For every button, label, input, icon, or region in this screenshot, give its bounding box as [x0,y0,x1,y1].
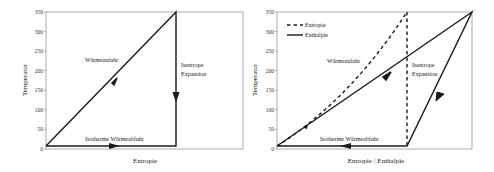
tick-label: 200 [266,68,275,74]
tick-label: 200 [35,68,44,74]
arrow-left-icon [340,143,351,149]
tick-label: 150 [35,87,44,93]
tick-label: 0 [271,146,274,152]
annotation-expansion: Expansion [181,71,206,77]
left-y-tick-labels: 0 50 100 150 200 250 300 350 [35,9,44,152]
cycle-path [46,12,176,146]
annotation-isotherm: Isotherme Wärmeabfuhr [320,136,379,142]
right-y-axis-label: Temperatur [251,63,259,96]
left-y-axis-label: Temperatur [21,63,29,96]
annotation-isentrope: Isentrope [412,62,435,68]
tick-label: 350 [35,9,44,15]
left-plot-frame [46,12,243,149]
arrow-up-icon [112,78,117,85]
tick-label: 100 [266,107,275,113]
left-cycle [46,12,180,149]
annotation-expansion: Expansion [412,71,437,77]
tick-label: 50 [269,126,275,132]
arrow-left-icon [109,143,120,149]
annotation-heat-in: Wärmezufuhr [85,57,118,63]
tick-label: 300 [35,29,44,35]
tick-label: 50 [38,126,44,132]
arrow-down-icon [173,92,180,103]
right-y-tick-labels: 0 50 100 150 200 250 300 350 [266,9,275,152]
annotation-heat-in: Wärmezufuhr [327,58,360,64]
left-x-axis-label: Entropie [133,157,157,165]
tick-label: 250 [35,48,44,54]
right-chart: 0 50 100 150 200 250 300 350 Temperatur … [251,9,472,165]
right-x-axis-label: Entropie / Enthalpie [348,157,404,165]
legend-label-entropie: Entropie [305,22,326,28]
tick-label: 100 [35,107,44,113]
legend: Entropie Enthalpie [287,22,328,38]
legend-label-enthalpie: Enthalpie [305,32,328,38]
annotation-isotherm: Isotherme Wärmeabfuhr [85,136,144,142]
tick-label: 300 [266,29,275,35]
tick-label: 350 [266,9,275,15]
tick-label: 250 [266,48,275,54]
annotation-isentrope: Isentrope [181,62,204,68]
tick-label: 0 [40,146,43,152]
tick-label: 150 [266,87,275,93]
left-chart: 0 50 100 150 200 250 300 350 Temperatur … [21,9,243,165]
arrow-up-icon [383,72,391,80]
arrow-down-icon [436,92,444,101]
